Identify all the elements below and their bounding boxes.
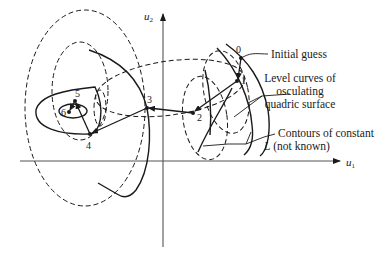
contours-not-known: (not known)	[270, 140, 330, 153]
contours-label-line1: Contours of constant	[278, 127, 375, 139]
annotations: Initial guess Level curves of osculating…	[263, 48, 375, 153]
level-curves-label-line3: quadric surface	[265, 98, 336, 111]
point-label-1: 1	[241, 75, 246, 86]
optimization-diagram: u1 u2	[0, 0, 378, 261]
contours-L-variable: L	[263, 140, 270, 152]
point-label-3: 3	[147, 94, 152, 105]
point-label-4: 4	[86, 140, 91, 151]
point-6	[67, 110, 71, 114]
point-label-6: 6	[61, 107, 66, 118]
contours-leader-2	[203, 144, 246, 146]
point-label-0: 0	[236, 44, 241, 55]
quadric-ellipse-1	[177, 73, 232, 162]
point-label-5: 5	[75, 88, 80, 99]
point-4	[88, 132, 92, 136]
step-2-3	[149, 108, 193, 113]
point-label-2: 2	[197, 112, 202, 123]
point-3	[145, 106, 149, 110]
quadric-ellipse-3	[52, 42, 108, 140]
point-5	[73, 99, 77, 103]
contours-label-line2: L (not known)	[263, 140, 330, 153]
u2-axis-label: u2	[144, 10, 154, 24]
point-1	[235, 79, 239, 83]
initial-guess-leader	[243, 54, 268, 57]
point-0	[239, 56, 243, 60]
step-4-5	[76, 103, 90, 134]
level-curves-label-line2: osculating	[276, 85, 324, 98]
L-contour-3	[198, 88, 232, 152]
point-2	[191, 111, 195, 115]
initial-guess-label: Initial guess	[271, 48, 327, 61]
level-curves-label-line1: Level curves of	[264, 72, 336, 84]
u1-axis-label: u1	[346, 156, 356, 170]
